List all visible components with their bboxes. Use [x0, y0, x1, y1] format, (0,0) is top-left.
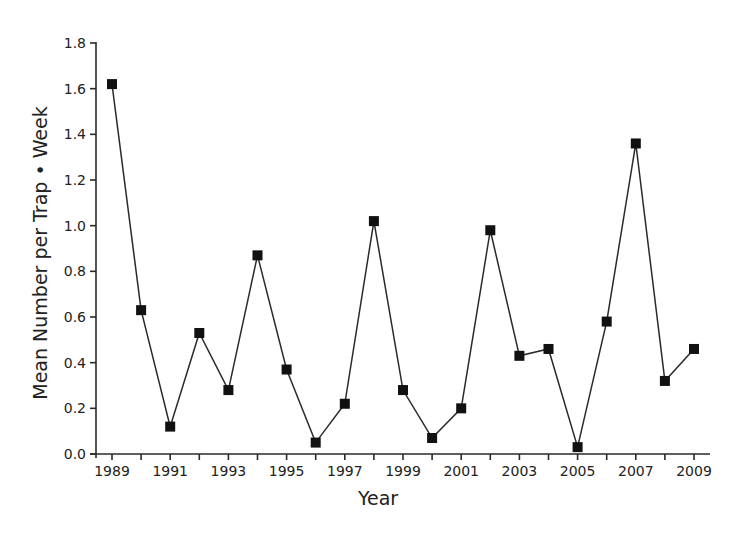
y-tick-label: 0.4 — [64, 355, 86, 371]
x-tick-label: 2007 — [618, 463, 654, 479]
x-tick-label: 2009 — [676, 463, 712, 479]
x-tick-label: 1993 — [211, 463, 247, 479]
data-point-marker — [631, 138, 641, 148]
data-point-marker — [369, 216, 379, 226]
y-tick-label: 0.0 — [64, 446, 86, 462]
data-point-marker — [689, 344, 699, 354]
x-tick-label: 2001 — [443, 463, 479, 479]
x-tick-label: 2005 — [560, 463, 596, 479]
data-point-marker — [602, 317, 612, 327]
data-point-marker — [544, 344, 554, 354]
data-point-marker — [136, 305, 146, 315]
y-tick-label: 0.6 — [64, 309, 86, 325]
y-tick-label: 1.4 — [64, 126, 86, 142]
x-tick-label: 1997 — [327, 463, 363, 479]
data-point-marker — [165, 422, 175, 432]
line-chart: 0.00.20.40.60.81.01.21.41.61.8 198919911… — [0, 0, 743, 540]
x-tick-label: 1991 — [152, 463, 188, 479]
data-point-marker — [311, 438, 321, 448]
data-point-marker — [340, 399, 350, 409]
y-axis-title: Mean Number per Trap • Week — [29, 106, 51, 399]
data-point-marker — [514, 351, 524, 361]
y-tick-label: 0.8 — [64, 263, 86, 279]
data-point-marker — [456, 403, 466, 413]
data-point-marker — [253, 250, 263, 260]
x-tick-label: 1999 — [385, 463, 421, 479]
data-point-marker — [223, 385, 233, 395]
data-point-marker — [573, 442, 583, 452]
y-tick-label: 1.0 — [64, 218, 86, 234]
x-tick-label: 2003 — [502, 463, 538, 479]
plot-area — [107, 79, 699, 452]
data-point-marker — [427, 433, 437, 443]
x-axis: 1989199119931995199719992001200320052007… — [90, 454, 712, 479]
x-axis-title: Year — [357, 487, 398, 509]
y-tick-label: 1.8 — [64, 35, 86, 51]
data-point-marker — [282, 365, 292, 375]
y-tick-label: 1.6 — [64, 81, 86, 97]
x-tick-label: 1995 — [269, 463, 305, 479]
x-tick-label: 1989 — [94, 463, 130, 479]
data-point-marker — [660, 376, 670, 386]
y-tick-label: 1.2 — [64, 172, 86, 188]
y-tick-label: 0.2 — [64, 400, 86, 416]
data-point-marker — [398, 385, 408, 395]
data-point-marker — [485, 225, 495, 235]
data-point-marker — [194, 328, 204, 338]
data-point-marker — [107, 79, 117, 89]
y-axis: 0.00.20.40.60.81.01.21.41.61.8 — [64, 35, 96, 462]
